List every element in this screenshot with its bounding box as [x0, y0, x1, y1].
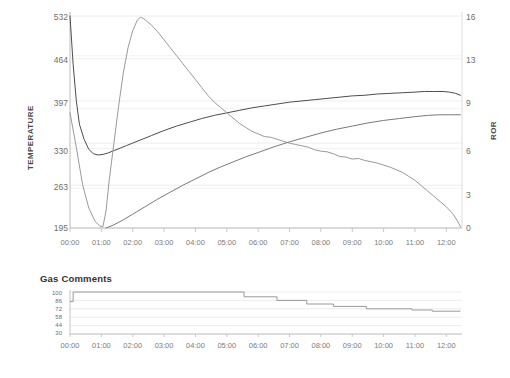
gas-gridlines — [70, 292, 462, 334]
gas-comments-panel: Gas Comments 100 86 72 58 44 30 00:0001:… — [0, 268, 510, 378]
gas-plot-area — [0, 268, 510, 378]
roast-chart-page: TEMPERATURE ROR 532 464 397 330 263 195 … — [0, 0, 510, 378]
roast-plot-area — [0, 0, 510, 268]
series-group — [70, 16, 460, 228]
roast-profile-chart: TEMPERATURE ROR 532 464 397 330 263 195 … — [0, 0, 510, 268]
gridlines — [70, 16, 462, 228]
axis-tick-marks — [70, 228, 446, 232]
